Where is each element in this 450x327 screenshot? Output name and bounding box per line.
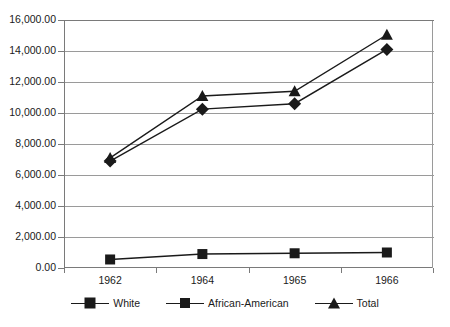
square-marker-icon: [166, 296, 204, 310]
triangle-marker-icon: [315, 296, 353, 310]
x-axis-tick-label: 1962: [98, 274, 121, 286]
legend-label: White: [113, 297, 140, 309]
x-axis-tick-label: 1966: [375, 274, 398, 286]
y-axis-tick-label: 2,000.00: [0, 230, 56, 242]
x-axis-tick-label: 1965: [283, 274, 306, 286]
gridline: [65, 237, 434, 238]
legend-label: African-American: [208, 297, 289, 309]
x-axis-tick-mark: [341, 268, 342, 273]
x-axis-tick-mark: [433, 268, 434, 273]
x-axis-tick-mark: [64, 268, 65, 273]
y-axis-tick-label: 16,000.00: [0, 13, 56, 25]
legend-item-total[interactable]: Total: [315, 296, 379, 310]
legend-label: Total: [357, 297, 379, 309]
y-axis-tick-label: 6,000.00: [0, 168, 56, 180]
diamond-marker-icon: [71, 296, 109, 310]
gridline: [65, 20, 434, 21]
y-axis-tick-label: 0.00: [0, 261, 56, 273]
x-axis-tick-label: 1964: [191, 274, 214, 286]
y-axis-tick-label: 4,000.00: [0, 199, 56, 211]
y-axis-tick-label: 8,000.00: [0, 137, 56, 149]
gridline: [65, 113, 434, 114]
y-axis-tick-label: 10,000.00: [0, 106, 56, 118]
gridline: [65, 82, 434, 83]
gridline: [65, 206, 434, 207]
y-axis-tick-label: 12,000.00: [0, 75, 56, 87]
x-axis-tick-mark: [156, 268, 157, 273]
legend-item-african-american[interactable]: African-American: [166, 296, 289, 310]
gridline: [65, 175, 434, 176]
x-axis-tick-mark: [249, 268, 250, 273]
legend-item-white[interactable]: White: [71, 296, 140, 310]
y-axis-tick-label: 14,000.00: [0, 44, 56, 56]
line-chart: 16,000.0014,000.0012,000.0010,000.008,00…: [0, 0, 450, 327]
plot-area: [64, 20, 433, 268]
chart-legend: White African-American Total: [0, 296, 450, 310]
gridline: [65, 51, 434, 52]
gridline: [65, 144, 434, 145]
